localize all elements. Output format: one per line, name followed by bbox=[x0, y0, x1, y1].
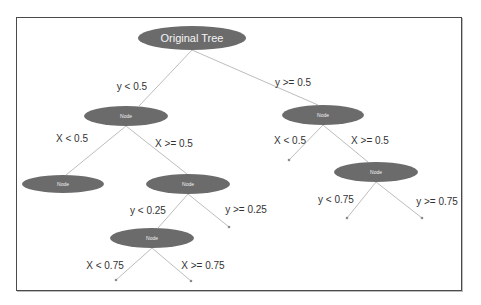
tree-edge bbox=[126, 126, 187, 174]
tree-edge bbox=[188, 194, 229, 227]
leaf-endpoint bbox=[115, 279, 118, 282]
node-label: Node bbox=[57, 181, 69, 187]
tree-edge bbox=[376, 182, 422, 218]
node-label: Node bbox=[182, 181, 194, 187]
edge-condition-label: X < 0.5 bbox=[56, 133, 88, 144]
leaf-endpoint bbox=[421, 217, 424, 220]
edge-condition-label: X >= 0.75 bbox=[181, 260, 224, 271]
leaf-endpoint bbox=[288, 159, 291, 162]
leaf-endpoint bbox=[346, 217, 349, 220]
node-label: Node bbox=[317, 112, 329, 118]
edge-condition-label: X < 0.5 bbox=[274, 135, 306, 146]
edge-condition-label: X < 0.75 bbox=[86, 260, 124, 271]
tree-node: Node bbox=[282, 105, 364, 125]
edge-condition-label: X >= 0.5 bbox=[155, 138, 193, 149]
node-label: Original Tree bbox=[161, 32, 224, 44]
root-node: Original Tree bbox=[138, 26, 246, 50]
leaf-endpoint bbox=[228, 226, 231, 229]
edge-condition-label: X >= 0.5 bbox=[351, 135, 389, 146]
tree-edges bbox=[0, 0, 481, 305]
tree-node: Node bbox=[110, 228, 194, 248]
leaf-endpoint bbox=[190, 280, 193, 283]
node-label: Node bbox=[146, 235, 158, 241]
tree-node: Node bbox=[22, 175, 104, 193]
edge-condition-label: y >= 0.75 bbox=[416, 196, 458, 207]
edge-condition-label: y < 0.75 bbox=[318, 194, 354, 205]
edge-condition-label: y >= 0.25 bbox=[225, 204, 267, 215]
edge-condition-label: y < 0.5 bbox=[117, 81, 147, 92]
decision-tree-diagram: Original TreeNodeNodeNodeNodeNodeNode y … bbox=[0, 0, 481, 305]
edge-condition-label: y < 0.25 bbox=[130, 205, 166, 216]
node-label: Node bbox=[370, 169, 382, 175]
tree-node: Node bbox=[146, 174, 230, 194]
tree-edge bbox=[139, 50, 192, 106]
tree-node: Node bbox=[84, 106, 168, 126]
edge-condition-label: y >= 0.5 bbox=[275, 77, 311, 88]
node-label: Node bbox=[120, 113, 132, 119]
tree-node: Node bbox=[334, 162, 418, 182]
